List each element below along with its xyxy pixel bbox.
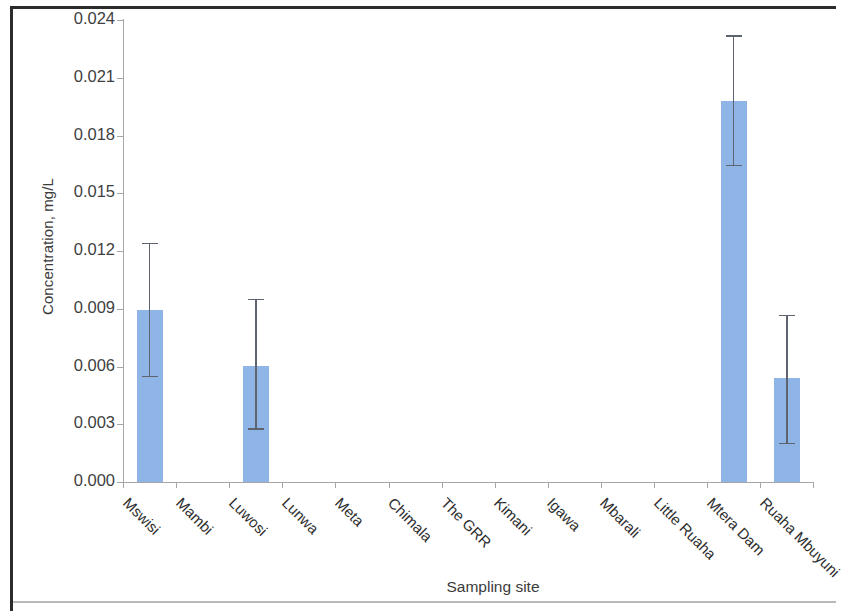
x-tick-label: Mbarali [597,494,644,541]
x-tick-mark [760,482,761,488]
y-tick-label: 0.015 [74,182,115,201]
x-tick-label: Ruaha Mbuyuni [757,494,843,580]
x-tick-mark [707,482,708,488]
x-axis-line [123,482,814,483]
y-tick-label: 0.000 [74,471,115,490]
error-bar-cap-upper [248,299,264,301]
y-axis-line [123,19,124,483]
x-tick-label: Igawa [544,494,584,534]
page-border-top [10,6,836,9]
error-bar-cap-upper [142,243,158,245]
x-tick-mark [654,482,655,488]
x-tick-label: Luwosi [226,494,271,539]
x-tick-label: Lunwa [279,494,322,537]
y-tick-label: 0.009 [74,298,115,317]
page-border-left [10,6,13,611]
x-tick-mark [495,482,496,488]
x-tick-mark [176,482,177,488]
x-tick-label: Kimani [491,494,535,538]
x-tick-mark [548,482,549,488]
error-bar-line [149,243,151,376]
x-tick-mark [813,482,814,488]
error-bar-cap-lower [142,376,158,378]
x-tick-label: Meta [332,494,368,530]
error-bar-cap-lower [726,165,742,167]
x-tick-label: The GRR [438,494,495,551]
y-tick-label: 0.006 [74,356,115,375]
x-tick-mark [601,482,602,488]
y-tick-label: 0.003 [74,413,115,432]
x-tick-label: Mswisi [120,494,164,538]
page-border-bottom [13,601,836,603]
error-bar-line [255,299,257,428]
error-bar-line [786,315,788,443]
x-tick-mark [229,482,230,488]
error-bar-line [733,35,735,165]
y-tick-label: 0.018 [74,125,115,144]
error-bar-cap-lower [248,428,264,430]
x-tick-label: Mambi [173,494,217,538]
x-tick-mark [389,482,390,488]
x-tick-mark [123,482,124,488]
error-bar-cap-upper [726,35,742,37]
x-tick-mark [442,482,443,488]
x-tick-mark [335,482,336,488]
error-bar-cap-upper [779,315,795,317]
y-tick-label: 0.012 [74,240,115,259]
x-tick-label: Chimala [385,494,436,545]
error-bar-cap-lower [779,443,795,445]
y-axis-tick-labels: 0.0000.0030.0060.0090.0120.0150.0180.021… [30,0,115,500]
x-axis-title-text: Sampling site [446,578,539,595]
x-axis-title: Sampling site [0,578,836,596]
y-tick-label: 0.021 [74,67,115,86]
x-tick-mark [282,482,283,488]
y-tick-label: 0.024 [74,9,115,28]
